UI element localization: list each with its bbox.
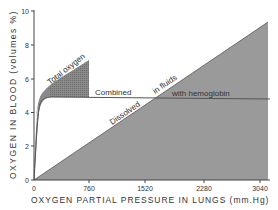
with-hemoglobin-label: with hemoglobin: [171, 89, 230, 98]
x-tick-2280: 2280: [196, 185, 212, 192]
y-axis-title: OXYGEN IN BLOOD (volumes %): [8, 11, 18, 179]
x-tick-1520: 1520: [137, 185, 153, 192]
combined-label: Combined: [95, 88, 131, 97]
oxygen-blood-chart: 0 2 4 6 8 10 0 760 1520 2280 3040 OXYGEN…: [0, 0, 278, 210]
x-axis-title: OXYGEN PARTIAL PRESSURE IN LUNGS (mm.Hg): [31, 195, 269, 205]
y-tick-0: 0: [25, 177, 29, 184]
x-tick-760: 760: [83, 185, 95, 192]
x-tick-0: 0: [32, 185, 36, 192]
x-tick-3040: 3040: [252, 185, 268, 192]
y-tick-2: 2: [25, 143, 29, 150]
y-tick-4: 4: [25, 109, 29, 116]
y-tick-10: 10: [21, 8, 29, 15]
y-tick-8: 8: [25, 42, 29, 49]
y-tick-6: 6: [25, 76, 29, 83]
